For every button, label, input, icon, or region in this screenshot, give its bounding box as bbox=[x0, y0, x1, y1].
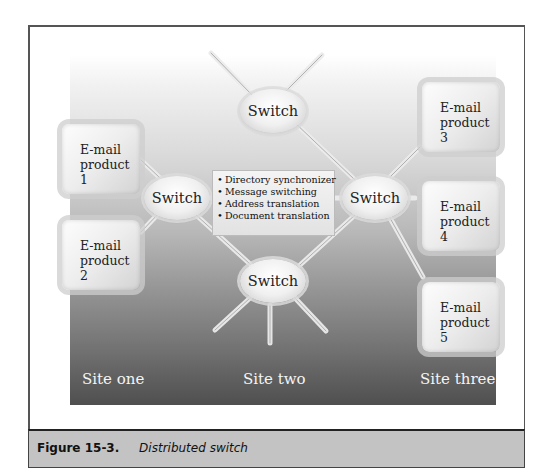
switch-left: Switch bbox=[144, 176, 210, 220]
product-line2: product 5 bbox=[440, 315, 500, 345]
product-line1: E-mail bbox=[440, 199, 500, 214]
product-line2: product 4 bbox=[440, 214, 500, 244]
product-line1: E-mail bbox=[80, 142, 140, 157]
switch-right: Switch bbox=[342, 176, 408, 220]
site-label-two: Site two bbox=[243, 370, 306, 388]
site-label-one: Site one bbox=[82, 370, 144, 388]
email-product-4: E-mail product 4 bbox=[422, 181, 500, 251]
product-line2: product 3 bbox=[440, 115, 500, 145]
feature-item: Document translation bbox=[217, 210, 334, 222]
switch-features-list: Directory synchronizer Message switching… bbox=[213, 171, 334, 235]
switch-label: Switch bbox=[248, 103, 298, 119]
switch-top: Switch bbox=[240, 89, 306, 133]
figure-title: Distributed switch bbox=[139, 441, 248, 455]
figure-caption: Figure 15-3. Distributed switch bbox=[28, 429, 525, 468]
product-line1: E-mail bbox=[80, 238, 140, 253]
figure-number: Figure 15-3. bbox=[37, 441, 119, 455]
email-product-1: E-mail product 1 bbox=[62, 124, 140, 194]
feature-item: Message switching bbox=[217, 186, 334, 198]
site-label-three: Site three bbox=[420, 370, 495, 388]
switch-label: Switch bbox=[350, 190, 400, 206]
product-line2: product 1 bbox=[80, 157, 140, 187]
email-product-2: E-mail product 2 bbox=[62, 220, 140, 290]
feature-item: Directory synchronizer bbox=[217, 174, 334, 186]
switch-label: Switch bbox=[248, 273, 298, 289]
email-product-5: E-mail product 5 bbox=[422, 282, 500, 352]
product-line1: E-mail bbox=[440, 300, 500, 315]
product-line1: E-mail bbox=[440, 100, 500, 115]
product-line2: product 2 bbox=[80, 253, 140, 283]
email-product-3: E-mail product 3 bbox=[422, 82, 500, 152]
switch-label: Switch bbox=[152, 190, 202, 206]
feature-item: Address translation bbox=[217, 198, 334, 210]
switch-bottom: Switch bbox=[240, 259, 306, 303]
